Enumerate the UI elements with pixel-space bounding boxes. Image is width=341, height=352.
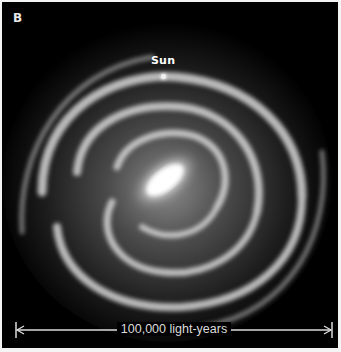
sun-marker: [161, 74, 166, 79]
panel-label: B: [13, 11, 22, 25]
scale-bar: 100,000 light-years: [14, 320, 334, 340]
scale-label: 100,000 light-years: [117, 322, 231, 336]
sun-label: Sun: [151, 54, 175, 67]
galaxy-figure: B Sun 100,000 light-years: [2, 2, 338, 348]
